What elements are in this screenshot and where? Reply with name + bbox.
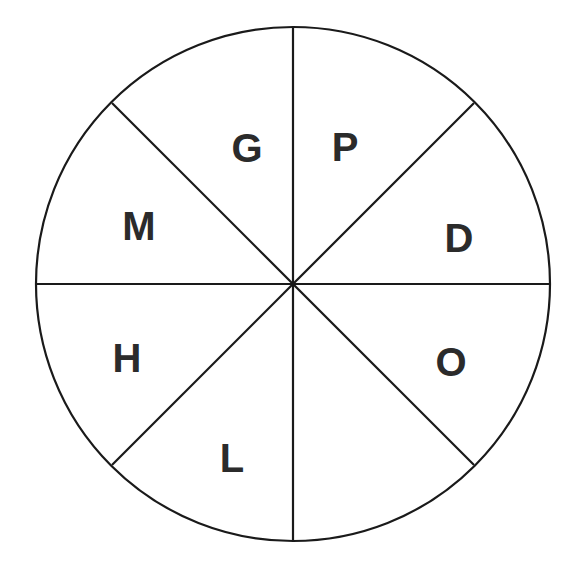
sector-label-l: L <box>220 436 244 480</box>
wheel-svg: G M H L O D P <box>0 0 579 565</box>
sector-label-g: G <box>231 126 262 170</box>
sector-label-p: P <box>332 125 359 169</box>
sector-label-m: M <box>122 204 155 248</box>
sector-label-h: H <box>113 336 142 380</box>
sector-label-d: D <box>445 216 474 260</box>
divider-lines-group <box>37 28 549 540</box>
sector-label-o: O <box>435 340 466 384</box>
sector-wheel-figure: G M H L O D P <box>0 0 579 565</box>
